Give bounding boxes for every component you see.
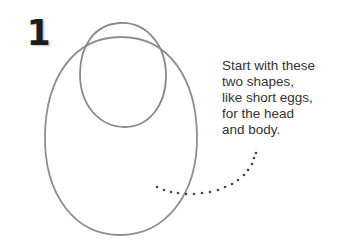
- instruction-caption: Start with these two shapes, like short …: [222, 58, 340, 138]
- drawing-instruction-panel: 1 Start with these two shap: [0, 0, 342, 246]
- body-oval-shape: [45, 37, 197, 235]
- caption-line: for the head: [222, 106, 340, 122]
- caption-line: two shapes,: [222, 74, 340, 90]
- dotted-leader-line: [156, 152, 258, 196]
- caption-line: like short eggs,: [222, 90, 340, 106]
- caption-line: Start with these: [222, 58, 340, 74]
- caption-line: and body.: [222, 122, 340, 138]
- head-oval-shape: [80, 23, 166, 127]
